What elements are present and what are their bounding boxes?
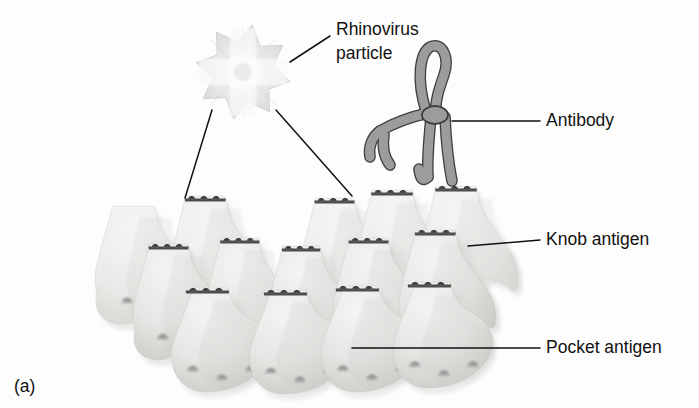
label-pocket-antigen: Pocket antigen [546,337,662,357]
antibody-molecule [369,46,452,181]
receptor-field [95,186,522,400]
diagram-canvas: Rhinovirus particle Antibody Knob antige… [0,0,699,408]
label-rhinovirus-line2: particle [336,43,392,63]
leader-rhinovirus-label [290,36,330,62]
leader-virus-to-knob-right [276,110,352,196]
leader-virus-to-knob-left [185,110,212,198]
label-rhinovirus-line1: Rhinovirus [336,19,419,39]
label-knob-antigen: Knob antigen [546,229,649,249]
figure-caption: (a) [14,376,35,396]
rhinovirus-particle [196,25,290,119]
label-antibody: Antibody [546,110,614,130]
rhinovirus-receptor-diagram: Rhinovirus particle Antibody Knob antige… [0,0,699,408]
